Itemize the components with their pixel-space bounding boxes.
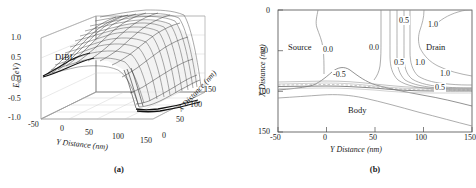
contour-label-6: 1.0 <box>414 58 426 67</box>
panel-a-ytick-4: 150 <box>140 136 152 145</box>
contour-label-8: 0.5 <box>434 83 446 92</box>
panel-b-region-source: Source <box>288 42 312 52</box>
contour-label-1: 0.0 <box>368 43 380 52</box>
contour-label-4: -0.5 <box>332 70 347 79</box>
panel-b-y-axis-label: X Distance (nm) <box>258 23 267 119</box>
panel-b-xtick-0: -50 <box>270 133 281 142</box>
contour-label-0: 0.0 <box>322 45 334 54</box>
panel-b-xtick-4: 150 <box>464 133 476 142</box>
panel-b-caption: (b) <box>355 164 395 174</box>
contour-label-7: 1.0 <box>439 69 451 78</box>
contour-label-5: 0.5 <box>393 58 405 67</box>
panel-a-ytick-3: 100 <box>112 132 124 141</box>
panel-b-ytick-3: 150 <box>258 127 270 136</box>
contour-label-2: 0.5 <box>398 16 410 25</box>
figure-root: 1.0 0.5 0.0 -0.5 -1.0 EC (eV) -50 0 50 1… <box>0 0 476 188</box>
panel-a-z-axis-label: EC (eV) <box>12 45 23 105</box>
panel-a-canvas <box>0 0 238 188</box>
panel-b-canvas <box>238 0 476 188</box>
panel-b-xtick-2: 50 <box>369 133 377 142</box>
panel-b-x-axis-label: Y Distance (nm) <box>330 145 382 154</box>
panel-a-xtick-0: 0 <box>162 131 166 140</box>
panel-b-ytick-0: 0 <box>266 6 270 15</box>
panel-b-xtick-1: 0 <box>323 133 327 142</box>
contour-label-3: 1.0 <box>427 20 439 29</box>
panel-a-ytick-0: -50 <box>28 120 39 129</box>
panel-a-ytick-2: 50 <box>85 128 93 137</box>
panel-b-contour-plot: 0 50 100 150 X Distance (nm) -50 0 50 10… <box>238 0 476 188</box>
panel-a-ztick-0: 1.0 <box>11 33 21 42</box>
panel-a-surface-plot: 1.0 0.5 0.0 -0.5 -1.0 EC (eV) -50 0 50 1… <box>0 0 238 188</box>
panel-b-xtick-3: 100 <box>415 133 427 142</box>
panel-a-ytick-1: 0 <box>60 124 64 133</box>
panel-a-xtick-1: 50 <box>176 115 184 124</box>
panel-a-ztick-4: -1.0 <box>8 113 21 122</box>
panel-b-region-drain: Drain <box>426 42 445 52</box>
panel-a-dibl-annotation: DIBL <box>55 52 75 62</box>
panel-a-caption: (a) <box>99 164 139 174</box>
panel-b-region-body: Body <box>348 105 366 115</box>
